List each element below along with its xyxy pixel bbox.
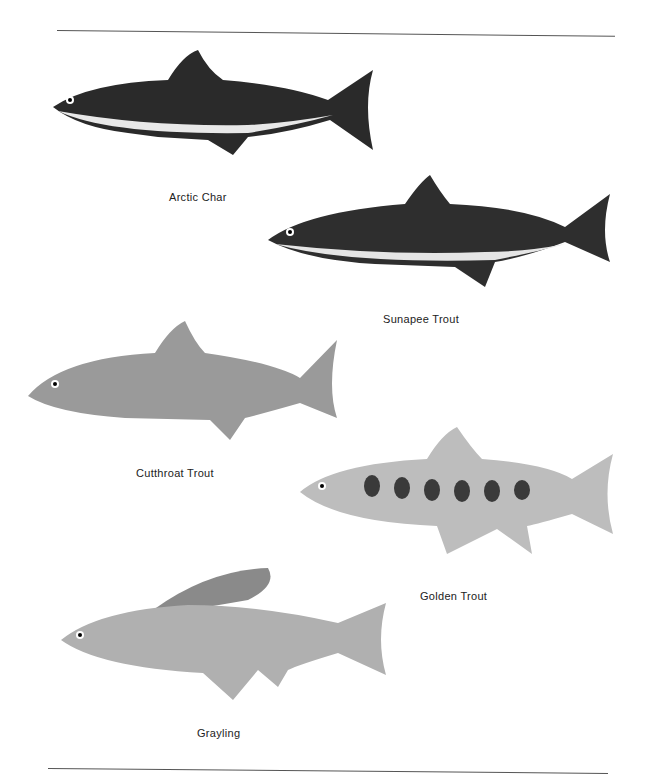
- caption-sunapee-trout: Sunapee Trout: [383, 313, 459, 325]
- arctic-char-illustration: [48, 45, 378, 170]
- caption-arctic-char: Arctic Char: [169, 191, 227, 203]
- cutthroat-trout-illustration: [25, 318, 340, 448]
- caption-golden-trout: Golden Trout: [420, 590, 487, 602]
- caption-grayling: Grayling: [197, 727, 240, 739]
- caption-cutthroat-trout: Cutthroat Trout: [136, 467, 214, 479]
- bottom-rule: [48, 768, 608, 774]
- grayling-illustration: [58, 565, 388, 705]
- golden-trout-illustration: [297, 424, 617, 564]
- sunapee-trout-illustration: [265, 172, 615, 290]
- top-rule: [57, 30, 615, 37]
